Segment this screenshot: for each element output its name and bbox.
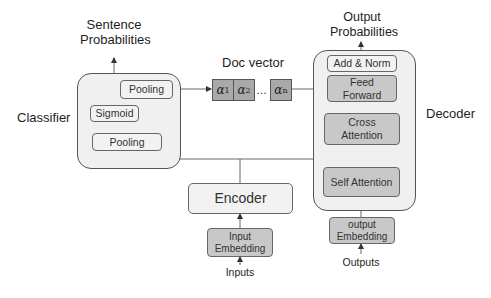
alpha-symbol: α: [216, 83, 224, 97]
input-embedding-line2: Embedding: [215, 243, 266, 255]
sentence-probabilities-line2: Probabilities: [80, 32, 148, 47]
sigmoid-box: Sigmoid: [90, 105, 139, 122]
subscript: n: [282, 86, 287, 95]
doc-vector-ellipsis: …: [256, 84, 267, 96]
self-attention-box: Self Attention: [323, 167, 400, 197]
cross-attention-box: CrossAttention: [324, 113, 400, 145]
subscript: 2: [246, 86, 251, 95]
feed-forward-line2: Forward: [343, 89, 382, 102]
output-probabilities-line1: Output: [330, 10, 394, 25]
output-probabilities-line2: Probabilities: [330, 25, 394, 40]
output-embedding-box: outputEmbedding: [329, 217, 395, 244]
doc-vector-element-1: α1: [212, 79, 234, 101]
encoder-box: Encoder: [188, 183, 293, 214]
pooling-top-box: Pooling: [120, 80, 173, 99]
output-embedding-line1: output: [337, 219, 388, 231]
sentence-probabilities-line1: Sentence: [80, 17, 148, 32]
decoder-label: Decoder: [426, 106, 475, 121]
input-embedding-box: InputEmbedding: [207, 228, 273, 257]
input-embedding-line1: Input: [215, 231, 266, 243]
alpha-symbol: α: [237, 83, 245, 97]
add-norm-box: Add & Norm: [327, 55, 397, 72]
inputs-label: Inputs: [218, 266, 262, 278]
outputs-label: Outputs: [336, 256, 386, 268]
cross-attention-line1: Cross: [341, 116, 382, 129]
classifier-label: Classifier: [17, 110, 70, 125]
output-probabilities-label: Output Probabilities: [330, 10, 394, 40]
feed-forward-box: FeedForward: [327, 75, 397, 102]
subscript: 1: [225, 86, 230, 95]
doc-vector-label: Doc vector: [222, 55, 284, 70]
feed-forward-line1: Feed: [343, 76, 382, 89]
architecture-diagram: Sentence Probabilities Classifier Poolin…: [0, 0, 491, 298]
sentence-probabilities-label: Sentence Probabilities: [80, 17, 148, 47]
alpha-symbol: α: [274, 83, 282, 97]
doc-vector-element-2: α2: [233, 79, 255, 101]
output-embedding-line2: Embedding: [337, 231, 388, 243]
doc-vector-element-n: αn: [270, 79, 292, 101]
cross-attention-line2: Attention: [341, 129, 382, 142]
pooling-bottom-box: Pooling: [92, 133, 162, 151]
